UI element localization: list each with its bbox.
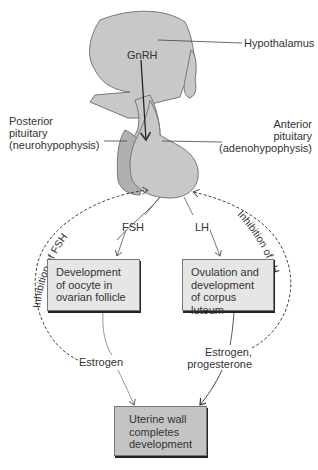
estrogen-label: Estrogen: [79, 356, 123, 368]
fsh-label: FSH: [122, 221, 144, 233]
hypothalamus-label: Hypothalamus: [244, 37, 314, 49]
gnrh-label: GnRH: [127, 49, 158, 61]
lh-label: LH: [195, 221, 209, 233]
ovulation-box: Ovulation and development of corpus lute…: [182, 259, 274, 311]
uterine-wall-box: Uterine wall completes development: [114, 406, 207, 456]
diagram-graphics: Inhibition of FSH Inhibition of LH: [0, 0, 318, 470]
oocyte-development-box: Development of oocyte in ovarian follicl…: [47, 259, 140, 311]
posterior-pituitary-label: Posterior pituitary (neurohypophysis): [9, 115, 100, 151]
anterior-pituitary-label: Anterior pituitary (adenohypophysis): [219, 118, 312, 154]
estrogen-progesterone-label: Estrogen, progesterone: [186, 346, 252, 370]
